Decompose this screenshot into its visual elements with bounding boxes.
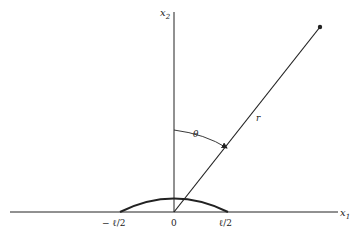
diagram-canvas: x2 x1 r θ 0 − ℓ/2 ℓ/2 — [0, 0, 355, 232]
left-tick-label: − ℓ/2 — [102, 218, 125, 228]
radius-line — [174, 27, 320, 212]
x2-axis-label: x2 — [160, 7, 171, 21]
origin-label: 0 — [171, 218, 177, 228]
radius-label: r — [256, 113, 261, 123]
right-tick-label: ℓ/2 — [219, 218, 232, 228]
observation-point — [318, 25, 322, 29]
angle-arc — [174, 130, 227, 148]
x1-axis-label: x1 — [340, 207, 350, 221]
angle-label: θ — [193, 129, 199, 139]
